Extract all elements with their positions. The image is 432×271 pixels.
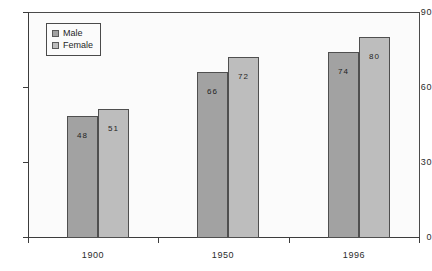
bar-1996-female[interactable]: 80 xyxy=(359,37,390,238)
y-tick-label-30: 30 xyxy=(410,158,432,167)
bar-value-1900-female: 51 xyxy=(99,124,128,133)
y-tick-label-0: 0 xyxy=(410,233,432,242)
y-tick-mark-90 xyxy=(23,12,28,13)
bar-1950-female[interactable]: 72 xyxy=(228,57,259,238)
bar-value-1996-female: 80 xyxy=(360,52,389,61)
x-tick-mark-2 xyxy=(289,238,290,243)
x-tick-label-1996: 1996 xyxy=(324,250,384,260)
legend-label-female: Female xyxy=(63,40,93,50)
y-tick-mark-30 xyxy=(23,162,28,163)
bar-value-1996-male: 74 xyxy=(329,67,358,76)
x-tick-mark-right xyxy=(419,238,420,243)
legend-swatch-female-icon xyxy=(52,42,59,49)
bar-1996-male[interactable]: 74 xyxy=(328,52,359,238)
y-tick-label-90: 90 xyxy=(410,8,432,17)
x-tick-label-1950: 1950 xyxy=(193,250,253,260)
x-tick-mark-left xyxy=(28,238,29,243)
chart-legend: Male Female xyxy=(46,23,101,56)
y-axis-line xyxy=(28,12,29,238)
y-tick-label-60: 60 xyxy=(410,83,432,92)
bar-1900-female[interactable]: 51 xyxy=(98,109,129,238)
bar-value-1950-male: 66 xyxy=(198,87,227,96)
bar-1950-male[interactable]: 66 xyxy=(197,72,228,238)
bar-1900-male[interactable]: 48 xyxy=(67,116,98,238)
chart-title-remnant xyxy=(0,0,432,5)
legend-label-male: Male xyxy=(63,28,83,38)
y-tick-mark-60 xyxy=(23,87,28,88)
x-tick-mark-1 xyxy=(158,238,159,243)
legend-swatch-male-icon xyxy=(52,30,59,37)
bar-value-1950-female: 72 xyxy=(229,72,258,81)
bar-value-1900-male: 48 xyxy=(68,131,97,140)
x-tick-label-1900: 1900 xyxy=(63,250,123,260)
bar-chart-figure: 90 60 30 0 1900 1950 1996 48 51 66 72 74… xyxy=(0,0,432,271)
legend-item-male[interactable]: Male xyxy=(52,27,93,39)
legend-item-female[interactable]: Female xyxy=(52,39,93,51)
